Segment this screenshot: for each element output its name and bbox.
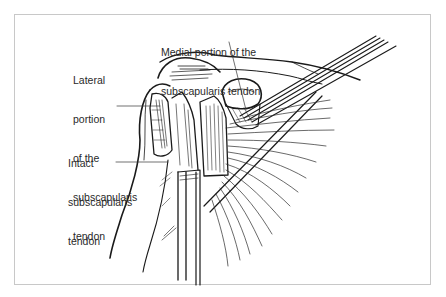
label-intact-line2: subscapularis <box>68 196 132 209</box>
label-lateral-line1: Lateral <box>73 74 137 87</box>
label-medial-line1: Medial portion of the <box>161 46 260 59</box>
label-intact-tendon: Intact subscapularis tendon <box>68 131 132 261</box>
label-intact-line1: Intact <box>68 157 132 170</box>
label-medial-portion: Medial portion of the subscapularis tend… <box>161 20 260 111</box>
label-lateral-line2: portion <box>73 113 137 126</box>
label-intact-line3: tendon <box>68 235 132 248</box>
label-medial-line2: subscapularis tendon <box>161 85 260 98</box>
